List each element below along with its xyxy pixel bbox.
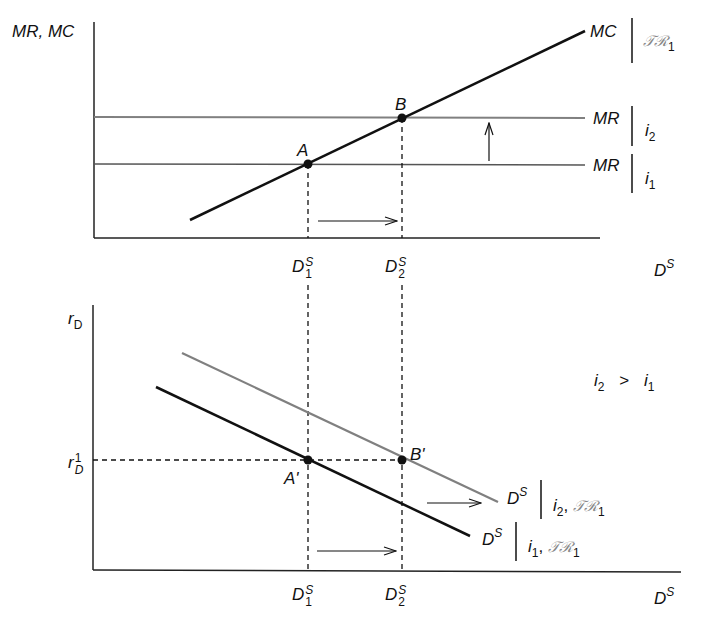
mr-i2-label-text: MR [593,109,619,128]
point-a-prime-label: A' [284,470,299,487]
bottom-panel [93,305,681,572]
inequality-annotation: i2 > i1 [594,372,654,389]
top-x-tick-d2: DS2 [385,256,406,280]
point-b-prime-label: B' [410,446,425,463]
top-y-axis-label: MR, MC [12,23,74,40]
point-b [398,114,407,123]
ds-i2-condition: i2, 𝒯ℛ1 [553,497,605,514]
top-x-tick-d1: DS1 [292,256,313,280]
mr-i1-line [94,164,585,165]
mr-i1-condition: i1 [645,170,655,187]
point-b-prime [398,456,407,465]
ds-i1-condition: i1, 𝒯ℛ1 [528,538,580,555]
bottom-x-axis [93,570,681,572]
tr-symbol: 𝒯ℛ [643,32,668,50]
y-tick-r1: r1D [68,452,83,476]
mc-line [190,31,585,220]
mr-i1-label-text: MR [593,156,619,175]
mc-label-text: MC [590,22,616,41]
mr-i2-line [94,117,585,118]
top-x-axis-label: DS [654,262,674,279]
point-a-prime [304,456,313,465]
i-subscript: 2 [649,130,656,144]
top-panel [94,18,632,238]
diagram-canvas [0,0,710,637]
bottom-x-tick-d2: DS2 [385,584,406,608]
point-a-label: A [297,142,308,159]
bottom-x-tick-d1: DS1 [292,584,313,608]
ds-i2-label: DS [507,490,527,507]
ds-i1-label: DS [482,531,502,548]
mc-condition: 𝒯ℛ1 [643,32,675,49]
tr-subscript: 1 [668,40,675,54]
mc-label: MC [590,23,616,40]
point-a [304,160,313,169]
mr-i1-label: MR [593,157,619,174]
point-b-label: B [395,96,406,113]
mr-i2-condition: i2 [645,122,655,139]
bottom-x-axis-label: DS [654,590,674,607]
i-subscript: 1 [649,178,656,192]
bottom-y-axis-label: rD [68,310,82,327]
ds-i2-line [182,353,498,502]
mr-i2-label: MR [593,110,619,127]
